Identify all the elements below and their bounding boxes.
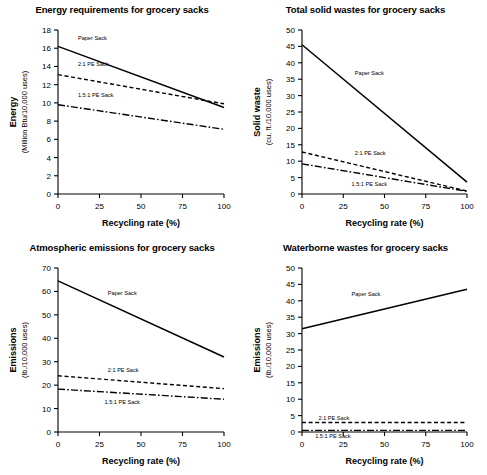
- x-axis-title: Recycling rate (%): [102, 456, 180, 466]
- y-tick-label: 40: [286, 59, 295, 68]
- series-label: 1.5:1 PE Sack: [315, 433, 351, 439]
- y-tick-label: 2: [47, 172, 52, 181]
- y-tick-label: 35: [286, 313, 295, 322]
- series-label: 2:1 PE Sack: [78, 61, 109, 67]
- x-tick-label: 100: [217, 202, 231, 211]
- y-tick-label: 30: [42, 358, 51, 367]
- series-label: Paper Sack: [108, 290, 137, 296]
- y-tick-label: 25: [286, 108, 295, 117]
- y-tick-label: 0: [47, 428, 52, 437]
- y-tick-label: 70: [42, 264, 51, 273]
- series-label: Paper Sack: [352, 291, 381, 297]
- y-tick-label: 0: [291, 190, 296, 199]
- x-axis-title: Recycling rate (%): [102, 218, 180, 228]
- series-label: 2:1 PE Sack: [108, 367, 139, 373]
- y-tick-label: 45: [286, 42, 295, 51]
- y-tick-label: 20: [42, 381, 51, 390]
- x-tick-label: 0: [56, 202, 61, 211]
- series-label: 2:1 PE Sack: [355, 150, 386, 156]
- series-line: [58, 389, 224, 399]
- x-axis-title: Recycling rate (%): [345, 218, 423, 228]
- series-label: 2:1 PE Sack: [319, 415, 350, 421]
- y-tick-label: 15: [286, 379, 295, 388]
- y-tick-label: 45: [286, 280, 295, 289]
- y-tick-label: 20: [286, 124, 295, 133]
- y-axis-title: Energy: [8, 97, 18, 128]
- y-tick-label: 40: [42, 334, 51, 343]
- x-tick-label: 25: [95, 202, 104, 211]
- x-tick-label: 0: [300, 202, 305, 211]
- series-label: 1.5:1 PE Sack: [78, 92, 114, 98]
- y-tick-label: 50: [286, 264, 295, 273]
- y-tick-label: 40: [286, 297, 295, 306]
- x-tick-label: 25: [95, 440, 104, 449]
- y-axis-unit: (Million Btu/10,000 uses): [20, 70, 29, 153]
- chart-panel-atmospheric-emissions: Atmospheric emissions for grocery sacks …: [0, 238, 244, 475]
- x-tick-label: 0: [300, 440, 305, 449]
- y-tick-label: 14: [42, 62, 51, 71]
- y-tick-label: 16: [42, 44, 51, 53]
- x-tick-label: 100: [217, 440, 231, 449]
- x-tick-label: 75: [421, 440, 430, 449]
- series-line: [302, 164, 467, 192]
- x-axis-title: Recycling rate (%): [345, 456, 423, 466]
- x-tick-label: 100: [460, 440, 474, 449]
- x-tick-label: 25: [339, 202, 348, 211]
- y-tick-label: 30: [286, 330, 295, 339]
- chart-title: Total solid wastes for grocery sacks: [244, 4, 487, 15]
- y-axis-title: Emissions: [8, 327, 18, 372]
- y-axis-unit: (lb./10,000 uses): [20, 322, 29, 378]
- y-tick-label: 20: [286, 362, 295, 371]
- series-line: [58, 376, 224, 389]
- y-tick-label: 60: [42, 287, 51, 296]
- chart-title: Energy requirements for grocery sacks: [0, 4, 244, 15]
- x-tick-label: 50: [380, 202, 389, 211]
- y-tick-label: 8: [47, 117, 52, 126]
- y-axis-title: Solid waste: [252, 87, 262, 137]
- plot-area: 051015202530354045500255075100Recycling …: [244, 254, 487, 475]
- y-tick-label: 12: [42, 81, 51, 90]
- series-label: 1.5:1 PE Sack: [104, 399, 140, 405]
- plot-area: 0102030405060700255075100Recycling rate …: [0, 254, 244, 475]
- y-tick-label: 30: [286, 92, 295, 101]
- plot-area: 0246810121416180255075100Recycling rate …: [0, 16, 244, 238]
- y-tick-label: 6: [47, 135, 52, 144]
- y-axis-unit: (lb./10,000 uses): [264, 322, 273, 378]
- y-tick-label: 0: [47, 190, 52, 199]
- x-tick-label: 75: [178, 202, 187, 211]
- series-label: Paper Sack: [78, 35, 107, 41]
- plot-area: 051015202530354045500255075100Recycling …: [244, 16, 487, 238]
- y-tick-label: 10: [286, 395, 295, 404]
- y-tick-label: 0: [291, 428, 296, 437]
- y-axis-unit: (cu. ft./10,000 uses): [264, 78, 273, 145]
- chart-title: Waterborne wastes for grocery sacks: [244, 242, 487, 253]
- series-line: [302, 289, 467, 328]
- y-tick-label: 4: [47, 154, 52, 163]
- chart-title: Atmospheric emissions for grocery sacks: [0, 242, 244, 253]
- x-tick-label: 50: [137, 202, 146, 211]
- series-line: [58, 46, 224, 107]
- y-tick-label: 25: [286, 346, 295, 355]
- y-tick-label: 35: [286, 75, 295, 84]
- series-line: [58, 281, 224, 357]
- series-label: 1.5:1 PE Sack: [352, 181, 388, 187]
- y-tick-label: 15: [286, 141, 295, 150]
- x-tick-label: 75: [178, 440, 187, 449]
- y-axis-title: Emissions: [252, 327, 262, 372]
- chart-panel-waterborne-wastes: Waterborne wastes for grocery sacks 0510…: [244, 238, 487, 475]
- x-tick-label: 0: [56, 440, 61, 449]
- chart-panel-solid-waste: Total solid wastes for grocery sacks 051…: [244, 0, 487, 238]
- series-line: [302, 45, 467, 182]
- y-tick-label: 10: [42, 405, 51, 414]
- x-tick-label: 25: [339, 440, 348, 449]
- y-tick-label: 10: [286, 157, 295, 166]
- y-tick-label: 18: [42, 26, 51, 35]
- x-tick-label: 50: [380, 440, 389, 449]
- x-tick-label: 50: [137, 440, 146, 449]
- y-tick-label: 50: [42, 311, 51, 320]
- series-line: [58, 105, 224, 130]
- x-tick-label: 75: [421, 202, 430, 211]
- x-tick-label: 100: [460, 202, 474, 211]
- y-tick-label: 5: [291, 412, 296, 421]
- series-line: [58, 75, 224, 104]
